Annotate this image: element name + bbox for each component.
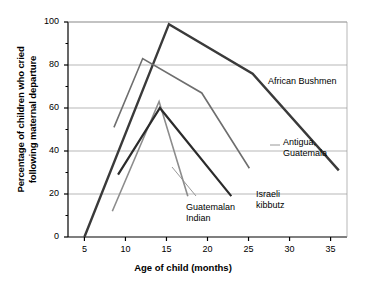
x-tick-label: 35 xyxy=(316,244,346,254)
x-tick-label: 25 xyxy=(234,244,264,254)
series-label-line1: Antigua, xyxy=(283,137,327,148)
x-tick-label: 5 xyxy=(69,244,99,254)
series-label-1: Antigua,Guatemala xyxy=(283,137,327,158)
series-label-2: GuatemalanIndian xyxy=(186,202,235,223)
x-tick-label: 15 xyxy=(151,244,181,254)
y-tick-label: 100 xyxy=(35,16,59,26)
series-line-2 xyxy=(112,102,187,212)
series-label-line2: Indian xyxy=(186,213,235,224)
y-tick-label: 0 xyxy=(35,231,59,241)
x-tick-label: 20 xyxy=(193,244,223,254)
chart-figure: Percentage of children who cried followi… xyxy=(0,0,366,284)
series-label-line1: Israeli xyxy=(256,189,285,200)
y-tick-label: 40 xyxy=(35,145,59,155)
x-axis-label: Age of child (months) xyxy=(0,262,366,273)
series-label-3: Israelikibbutz xyxy=(256,189,285,210)
series-label-line2: Guatemala xyxy=(283,148,327,159)
x-tick-label: 30 xyxy=(275,244,305,254)
y-tick-label: 80 xyxy=(35,59,59,69)
x-tick-label: 10 xyxy=(110,244,140,254)
y-axis-label-line1: Percentage of children who cried xyxy=(15,10,27,230)
series-label-0: African Bushmen xyxy=(268,76,337,87)
y-tick-label: 20 xyxy=(35,188,59,198)
series-label-line1: Guatemalan xyxy=(186,202,235,213)
y-tick-label: 60 xyxy=(35,102,59,112)
series-label-line2: kibbutz xyxy=(256,200,285,211)
